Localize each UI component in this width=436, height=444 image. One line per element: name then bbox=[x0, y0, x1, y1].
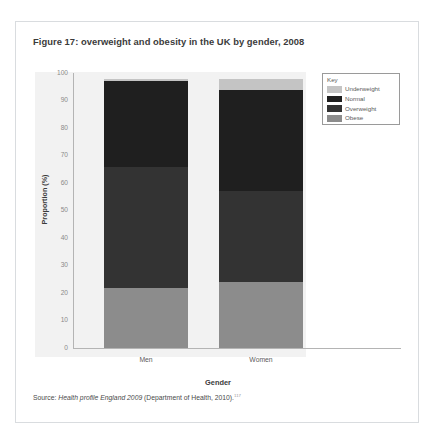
legend-title: Key bbox=[327, 77, 395, 83]
legend-label: Obese bbox=[345, 115, 363, 121]
legend-label: Underweight bbox=[345, 86, 380, 92]
y-tick-label: 0 bbox=[42, 345, 68, 352]
x-axis-title: Gender bbox=[16, 378, 420, 387]
figure-frame: Figure 17: overweight and obesity in the… bbox=[15, 21, 419, 423]
source-footnote-marker: 117 bbox=[234, 393, 241, 398]
y-tick-label: 30 bbox=[42, 262, 68, 269]
figure-title: Figure 17: overweight and obesity in the… bbox=[33, 36, 405, 47]
x-axis-line bbox=[73, 348, 401, 349]
bar-segment-normal bbox=[219, 90, 303, 192]
bar-segment-overweight bbox=[219, 191, 303, 282]
legend-item-underweight: Underweight bbox=[327, 85, 395, 95]
legend-rows: UnderweightNormalOverweightObese bbox=[327, 85, 395, 123]
y-tick-label: 20 bbox=[42, 290, 68, 297]
legend-label: Normal bbox=[345, 96, 365, 102]
y-tick-label: 90 bbox=[42, 97, 68, 104]
bar-segment-overweight bbox=[104, 167, 188, 288]
bar-segment-obese bbox=[104, 288, 188, 349]
y-tick-label: 10 bbox=[42, 317, 68, 324]
legend-swatch-icon bbox=[327, 115, 342, 122]
legend-item-overweight: Overweight bbox=[327, 104, 395, 114]
y-tick-label: 50 bbox=[42, 207, 68, 214]
source-suffix: (Department of Health, 2010). bbox=[142, 394, 234, 401]
bar-segment-normal bbox=[104, 81, 188, 166]
source-prefix: Source: bbox=[33, 394, 58, 401]
chart-canvas: Proportion (%) 0102030405060708090100 Me… bbox=[16, 60, 420, 390]
legend-item-normal: Normal bbox=[327, 94, 395, 104]
legend-item-obese: Obese bbox=[327, 113, 395, 123]
legend-swatch-icon bbox=[327, 86, 342, 93]
legend-label: Overweight bbox=[345, 106, 376, 112]
x-tick-label-women: Women bbox=[201, 356, 321, 363]
bar-segment-obese bbox=[219, 282, 303, 348]
x-tick-label-men: Men bbox=[86, 356, 206, 363]
bar-segment-underweight bbox=[104, 79, 188, 82]
y-tick-label: 70 bbox=[42, 152, 68, 159]
y-axis-ticks: 0102030405060708090100 bbox=[38, 60, 68, 360]
bar-segment-underweight bbox=[219, 79, 303, 90]
y-axis-line bbox=[73, 73, 74, 348]
legend-swatch-icon bbox=[327, 96, 342, 103]
legend-swatch-icon bbox=[327, 105, 342, 112]
source-caption: Source: Health profile England 2009 (Dep… bbox=[33, 393, 241, 401]
y-tick-label: 40 bbox=[42, 235, 68, 242]
source-title: Health profile England 2009 bbox=[58, 394, 142, 401]
y-tick-label: 60 bbox=[42, 180, 68, 187]
y-tick-label: 80 bbox=[42, 125, 68, 132]
y-tick-label: 100 bbox=[42, 70, 68, 77]
legend: Key UnderweightNormalOverweightObese bbox=[322, 73, 400, 125]
